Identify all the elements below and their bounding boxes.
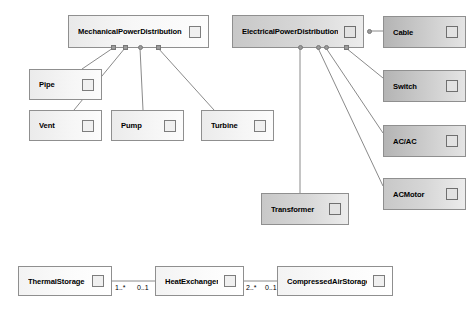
connector-anchor-elec-3-icon[interactable] [324, 45, 329, 50]
class-box-vent[interactable]: Vent [29, 110, 102, 141]
port-square-icon[interactable] [446, 26, 458, 38]
class-name-label: Switch [393, 82, 440, 91]
class-name-label: AC/AC [393, 137, 440, 146]
mult-compressed-end: 0..1 [265, 284, 277, 291]
class-name-label: Pump [121, 121, 158, 130]
connector-anchor-elec-2-icon[interactable] [316, 45, 321, 50]
class-name-label: Transformer [271, 205, 323, 214]
class-name-label: Vent [39, 121, 76, 130]
class-box-heat-exchanger[interactable]: HeatExchanger [155, 266, 244, 296]
connector-anchor-mech-4-icon[interactable] [156, 45, 161, 50]
connector-anchor-mech-3-icon[interactable] [138, 45, 143, 50]
class-box-pipe[interactable]: Pipe [29, 69, 102, 100]
connector-anchor-elec-right-icon[interactable] [367, 29, 372, 34]
port-square-icon[interactable] [189, 26, 201, 38]
class-box-mechanical-power-distribution[interactable]: MechanicalPowerDistribution [68, 15, 209, 48]
class-box-transformer[interactable]: Transformer [261, 193, 349, 225]
class-name-label: MechanicalPowerDistribution [78, 27, 183, 36]
class-name-label: Turbine [211, 121, 248, 130]
class-name-label: Pipe [39, 80, 76, 89]
connector-anchor-elec-4-icon[interactable] [344, 45, 349, 50]
edge-mech-pipe [82, 48, 113, 69]
class-box-switch[interactable]: Switch [383, 70, 466, 102]
port-square-icon[interactable] [329, 203, 341, 215]
port-square-icon[interactable] [82, 120, 94, 132]
class-name-label: CompressedAirStorage [287, 277, 367, 286]
port-square-icon[interactable] [373, 275, 385, 287]
connector-anchor-mech-1-icon[interactable] [111, 45, 116, 50]
mult-thermal-end: 1..* [115, 284, 126, 291]
class-box-turbine[interactable]: Turbine [201, 110, 274, 141]
class-box-ac-motor[interactable]: ACMotor [383, 178, 466, 210]
class-box-pump[interactable]: Pump [111, 110, 184, 141]
edge-elec-switch [346, 48, 383, 78]
mult-heat-left-end: 0..1 [137, 284, 149, 291]
edge-elec-acac [326, 48, 383, 133]
port-square-icon[interactable] [254, 120, 266, 132]
class-box-ac-ac[interactable]: AC/AC [383, 125, 466, 157]
class-box-electrical-power-distribution[interactable]: ElectricalPowerDistribution [232, 15, 364, 48]
connector-anchor-mech-2-icon[interactable] [123, 45, 128, 50]
edge-elec-acmotor [318, 48, 383, 186]
class-box-compressed-air-storage[interactable]: CompressedAirStorage [277, 266, 393, 296]
port-square-icon[interactable] [344, 26, 356, 38]
port-square-icon[interactable] [446, 188, 458, 200]
connector-anchor-elec-1-icon[interactable] [298, 45, 303, 50]
port-square-icon[interactable] [92, 275, 104, 287]
port-square-icon[interactable] [446, 135, 458, 147]
diagram-canvas: MechanicalPowerDistributionElectricalPow… [0, 0, 473, 319]
class-name-label: ACMotor [393, 190, 440, 199]
class-box-thermal-storage[interactable]: ThermalStorage [18, 266, 112, 296]
port-square-icon[interactable] [82, 79, 94, 91]
class-name-label: ThermalStorage [28, 277, 86, 286]
port-square-icon[interactable] [224, 275, 236, 287]
edge-mech-pump [140, 48, 143, 110]
class-name-label: HeatExchanger [165, 277, 218, 286]
port-square-icon[interactable] [164, 120, 176, 132]
class-name-label: ElectricalPowerDistribution [242, 27, 338, 36]
mult-heat-right-end: 2..* [246, 284, 257, 291]
port-square-icon[interactable] [446, 80, 458, 92]
edge-mech-turbine [158, 48, 214, 110]
class-name-label: Cable [393, 28, 440, 37]
class-box-cable[interactable]: Cable [383, 16, 466, 48]
